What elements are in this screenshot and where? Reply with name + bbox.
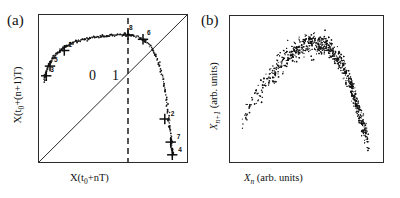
marker-label-6: 6 (147, 29, 151, 36)
marker-label-8: 8 (129, 24, 133, 31)
marker-cross-8 (123, 30, 133, 40)
panel-a-x-axis-title: X(t0+nT) (70, 172, 109, 186)
marker-label-2: 2 (171, 110, 175, 117)
symbol-zero: 0 (89, 68, 96, 84)
panel-b-y-axis-title-main: X (208, 123, 219, 129)
identity-diagonal-line (38, 14, 188, 163)
panel-b-label: (b) (201, 12, 219, 29)
panel-b: (b) Xn (arb. units) Xn+1 (arb. units) (196, 0, 400, 198)
panel-a-x-axis-title-main: X(t (70, 172, 84, 183)
panel-a-plot (38, 14, 188, 163)
panel-a-y-axis-title-tail: +(n+1)T) (12, 67, 23, 106)
marker-cross-7 (166, 137, 176, 147)
panel-b-x-axis-title-tail: (arb. units) (254, 172, 303, 183)
marker-label-4: 4 (178, 146, 182, 153)
panel-a-y-axis-title: X(t0+(n+1)T) (12, 35, 26, 155)
marker-label-1: 1 (68, 41, 72, 48)
panel-a-y-axis-title-main: X(t (12, 110, 23, 124)
panel-b-plot (229, 15, 384, 163)
panel-b-x-axis-title: Xn (arb. units) (244, 172, 303, 186)
panel-a-x-axis-title-tail: +nT) (88, 172, 109, 183)
marker-label-3: 3 (50, 66, 54, 73)
panel-b-y-axis-title-sub: n+1 (213, 111, 222, 124)
figure-container: (a) 12345678 0 1 X(t0+nT) X(t0+(n+1)T) (… (0, 0, 400, 198)
panel-b-y-axis-title-tail: (arb. units) (208, 62, 219, 111)
panel-b-y-axis-title: Xn+1 (arb. units) (208, 31, 222, 161)
panel-b-data-points (242, 30, 370, 152)
marker-cross-4 (167, 150, 177, 160)
symbol-one: 1 (112, 68, 119, 84)
panel-a-y-axis-title-sub: 0 (17, 106, 26, 110)
panel-a: (a) 12345678 0 1 X(t0+nT) X(t0+(n+1)T) (0, 0, 196, 198)
marker-label-7: 7 (177, 133, 181, 140)
panel-a-label: (a) (7, 12, 24, 29)
marker-label-5: 5 (54, 56, 58, 63)
